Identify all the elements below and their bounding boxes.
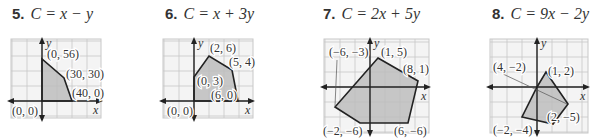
y-axis-label: y	[540, 36, 547, 50]
vertex-label: (1, 2)	[548, 64, 574, 78]
vertex-label: (6, 0)	[211, 88, 237, 102]
graph-problem-5: xy(0, 0)(0, 56)(30, 30)(40, 0)	[7, 36, 104, 122]
y-axis-label: y	[197, 36, 204, 50]
graph-problem-7: xy(1, 5)(8, 1)(6, −6)(−2, −6)(−6, −3)	[320, 36, 431, 138]
graph-problem-6: xy(0, 0)(0, 3)(2, 6)(5, 4)(6, 0)	[159, 36, 255, 122]
vertex-label: (6, −6)	[394, 124, 427, 138]
vertex-label: (8, 1)	[403, 62, 429, 76]
x-axis-label: x	[244, 103, 251, 117]
y-axis-label: y	[373, 36, 380, 50]
vertex-label: (30, 30)	[66, 67, 104, 81]
vertex-label: (−2, −4)	[493, 123, 533, 137]
vertex-label: (−6, −3)	[329, 45, 369, 59]
x-axis-label: x	[420, 89, 427, 103]
vertex-label: (0, 56)	[47, 47, 79, 61]
vertex-label: (1, 5)	[381, 45, 407, 59]
vertex-label: (2, −5)	[547, 110, 580, 124]
vertex-label: (−2, −6)	[323, 124, 363, 138]
vertex-label: (0, 0)	[167, 104, 193, 118]
vertex-label: (0, 0)	[12, 104, 38, 118]
vertex-label: (0, 3)	[197, 74, 223, 88]
vertex-label: (5, 4)	[229, 55, 255, 69]
feasible-region-graphs: xy(0, 0)(0, 56)(30, 30)(40, 0)xy(0, 0)(0…	[0, 0, 595, 140]
x-axis-label: x	[92, 103, 99, 117]
vertex-label: (40, 0)	[72, 86, 104, 100]
vertex-label: (4, −2)	[493, 60, 526, 74]
x-axis-label: x	[579, 89, 586, 103]
vertex-label: (2, 6)	[210, 41, 236, 55]
graph-problem-8: xy(1, 2)(4, −2)(2, −5)(−2, −4)	[486, 36, 590, 137]
